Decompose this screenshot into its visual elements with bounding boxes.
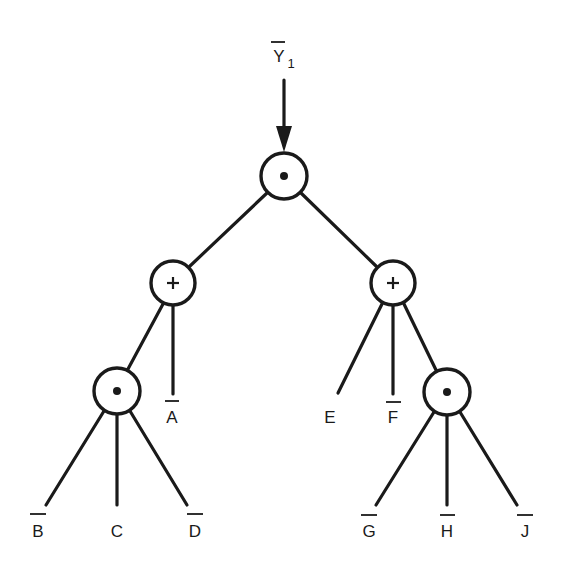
and-dot-icon (443, 388, 451, 396)
leaf-B: B (30, 514, 46, 541)
node-or-right (371, 261, 415, 305)
leaf-H: H (440, 515, 455, 541)
leaf-label: D (189, 522, 201, 541)
leaf-label: E (324, 408, 335, 427)
leaf-label: B (32, 522, 43, 541)
leaf-label: G (362, 522, 375, 541)
leaf-E: E (324, 408, 335, 427)
and-dot-icon (113, 387, 121, 395)
leaf-A: A (165, 401, 179, 427)
node-or-left (151, 261, 195, 305)
edge-and-right-J (460, 412, 517, 505)
node-root-and (261, 153, 307, 199)
edge-or-right-E (338, 304, 382, 393)
leaf-label: A (166, 408, 178, 427)
output-arrow (276, 80, 292, 152)
output-label: Y 1 (271, 42, 295, 71)
edges (46, 193, 517, 505)
leaf-G: G (361, 515, 377, 541)
logic-tree-diagram: Y 1 (0, 0, 561, 570)
leaf-J: J (517, 515, 533, 541)
leaf-label: H (441, 522, 453, 541)
arrowhead-icon (276, 126, 292, 152)
and-dot-icon (280, 172, 288, 180)
leaf-C: C (111, 522, 123, 541)
edge-and-left-D (130, 411, 187, 505)
leaf-D: D (187, 514, 203, 541)
edge-or-left-and-left (128, 304, 163, 369)
leaf-label: J (521, 522, 530, 541)
edge-or-right-and-right (404, 304, 436, 370)
edge-root-or-right (301, 193, 376, 266)
edge-root-or-left (190, 193, 267, 266)
leaf-label: C (111, 522, 123, 541)
node-and-left (94, 368, 140, 414)
output-subscript: 1 (287, 56, 294, 71)
output-letter: Y (273, 47, 284, 66)
leaf-label: F (388, 408, 398, 427)
edge-and-right-G (376, 412, 434, 505)
edge-and-left-B (46, 411, 104, 505)
node-and-right (424, 369, 470, 415)
leaf-F: F (386, 402, 401, 427)
